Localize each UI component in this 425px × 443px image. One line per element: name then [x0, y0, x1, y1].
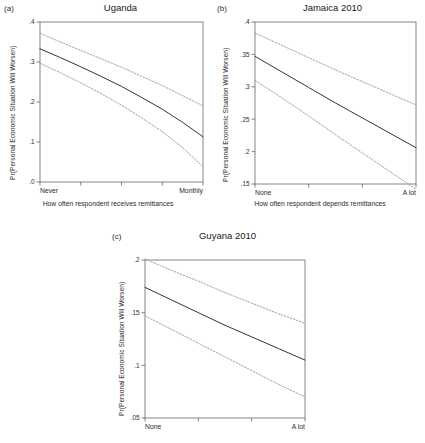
x-tick-label: None: [145, 423, 161, 430]
figure-root: { "figure": { "shared_ylabel": "Pr(Perso…: [0, 0, 425, 443]
y-tick-label: .2: [134, 256, 140, 263]
x-tick-label: A lot: [292, 423, 305, 430]
panel-jamaica: (b) Jamaica 2010 Pr(Personal Economic Si…: [211, 0, 425, 215]
y-tick-label: .0: [29, 178, 35, 185]
y-tick-label: .15: [241, 180, 250, 187]
x-axis-title-a: How often respondent receives remittance…: [8, 200, 208, 207]
y-tick-label: .3: [29, 58, 35, 65]
y-tick-label: .35: [241, 51, 250, 58]
confidence-interval-line: [40, 33, 203, 106]
x-tick-label: A lot: [403, 189, 416, 196]
y-tick-label: .3: [244, 83, 250, 90]
confidence-interval-line: [40, 63, 203, 167]
panel-guyana: (c) Guyana 2010 Pr(Personal Economic Sit…: [105, 222, 320, 443]
confidence-interval-line: [255, 33, 416, 105]
plot-area-guyana: .05.1.15.2NoneA lot: [105, 222, 320, 437]
y-tick-label: .2: [29, 98, 35, 105]
y-tick-label: .1: [134, 362, 140, 369]
y-tick-label: .2: [244, 148, 250, 155]
x-axis-title-b: How often respondent depends remittances: [219, 200, 421, 207]
prediction-line: [255, 56, 416, 147]
confidence-interval-line: [145, 259, 305, 323]
prediction-line: [145, 287, 305, 360]
y-tick-label: .4: [244, 18, 250, 25]
y-tick-label: .4: [29, 18, 35, 25]
x-tick-label: Monthly: [179, 187, 203, 195]
x-tick-label: None: [255, 189, 271, 196]
y-tick-label: .1: [29, 138, 35, 145]
y-tick-label: .05: [131, 414, 140, 421]
plot-area-uganda: .0.1.2.3.4NeverMonthly: [0, 0, 213, 200]
panel-uganda: (a) Uganda Pr(Personal Economic Situatio…: [0, 0, 213, 215]
plot-area-jamaica: .15.2.25.3.35.4NoneA lot: [211, 0, 425, 200]
y-tick-label: .25: [241, 116, 250, 123]
y-tick-label: .15: [131, 309, 140, 316]
x-tick-label: Never: [40, 187, 59, 194]
confidence-interval-line: [145, 316, 305, 397]
prediction-line: [40, 49, 203, 137]
